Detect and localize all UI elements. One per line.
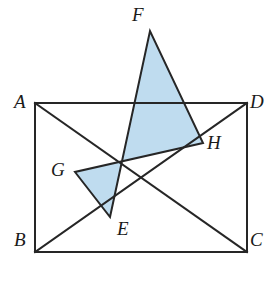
shaded-rhombus-EFGH [75,31,203,217]
vertex-label-a: A [14,92,26,111]
vertex-label-e: E [117,219,129,238]
vertex-label-g: G [51,160,65,179]
vertex-label-h: H [207,133,221,152]
vertex-label-b: B [14,230,26,249]
vertex-label-c: C [250,230,263,249]
geometry-figure: A B C D E F G H [0,0,277,288]
vertex-label-d: D [250,92,264,111]
figure-canvas [0,0,277,288]
vertex-label-f: F [132,5,144,24]
